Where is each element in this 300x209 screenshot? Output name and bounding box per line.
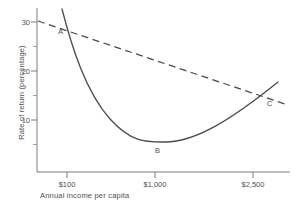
x-tick-label-2500: $2,500 [231,180,275,189]
chart-canvas [0,0,300,209]
x-tick-label-1000: $1,000 [133,180,177,189]
series-rate-of-return-curve [62,9,278,142]
annotation-label-c: C [267,99,272,108]
x-tick-label-100: $100 [45,180,89,189]
annotation-label-b: B [155,146,160,155]
y-axis-title: Rate of return (percentage) [17,18,26,168]
y-axis-ticks [31,22,37,120]
series-trend-line [38,21,288,105]
x-axis-ticks [67,172,253,178]
annotation-label-a: A [58,27,63,36]
chart-figure: 30 20 10 $100 $1,000 $2,500 A B C Rate o… [0,0,300,209]
x-axis-title: Annual income per capita [40,191,129,200]
y-axis-minor-ticks [33,47,37,145]
